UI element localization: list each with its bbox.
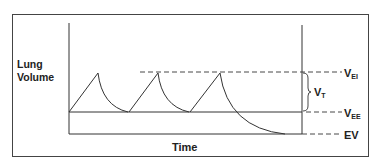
breath-cycle-1	[69, 73, 128, 112]
ev-label: EV	[344, 129, 359, 141]
vt-brace	[303, 73, 311, 111]
breath-cycle-2	[129, 73, 189, 112]
vee-label: VEE	[344, 107, 361, 120]
vei-label: VEI	[344, 67, 358, 80]
lung-volume-diagram: Lung Volume Time VEI VT VEE EV	[0, 0, 375, 166]
x-axis-label: Time	[172, 141, 197, 153]
y-axis-label-line1: Lung	[17, 58, 43, 70]
vt-label: VT	[314, 86, 326, 99]
y-axis-label-line2: Volume	[17, 71, 54, 83]
breath-cycle-3-exhale-to-ev	[190, 73, 285, 134]
